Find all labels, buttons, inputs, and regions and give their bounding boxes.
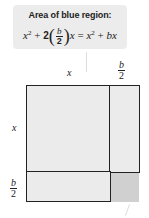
callout-title: Area of blue region: <box>13 10 127 20</box>
eq-x2: x <box>70 29 75 41</box>
left-half-b-label: b 2 <box>10 178 17 199</box>
eq-plus2: + <box>98 29 104 41</box>
bottom-strip-region <box>26 171 111 202</box>
right-strip-region <box>109 85 140 173</box>
arrow-artifact <box>125 204 130 216</box>
eq-exponent: 2 <box>28 29 32 37</box>
area-equation: x2 + 2(b2)x = x2 + bx <box>13 24 127 47</box>
top-x-label: x <box>67 67 71 78</box>
eq-equals: = <box>77 29 83 41</box>
x-squared-region <box>26 85 111 173</box>
eq-bx: bx <box>107 29 117 41</box>
eq-plus: + <box>34 29 40 41</box>
top-half-b-label: b 2 <box>118 60 125 81</box>
missing-corner-square <box>109 171 139 202</box>
area-callout: Area of blue region: x2 + 2(b2)x = x2 + … <box>13 5 127 49</box>
eq-fraction: b2 <box>56 27 63 46</box>
eq-exponent2: 2 <box>91 29 95 37</box>
left-x-label: x <box>12 122 16 133</box>
divider-artifact <box>86 52 87 72</box>
eq-left-paren: ( <box>49 26 55 46</box>
